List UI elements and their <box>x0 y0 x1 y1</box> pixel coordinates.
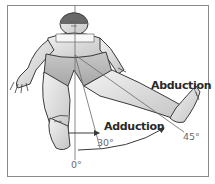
supine-body-illustration <box>0 0 215 184</box>
head <box>60 12 88 35</box>
angle-30-label: 30° <box>97 138 114 148</box>
right-leg-abducted <box>84 70 200 123</box>
adduction-label: Adduction <box>104 121 164 132</box>
hip-rom-figure: Abduction Adduction 30° 45° 0° <box>0 0 215 184</box>
abduction-label: Abduction <box>151 80 211 91</box>
angle-45-label: 45° <box>183 132 200 142</box>
angle-0-label: 0° <box>71 160 82 170</box>
